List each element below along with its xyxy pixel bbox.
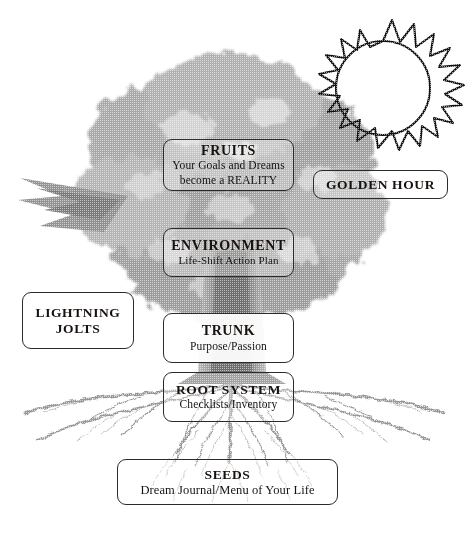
trunk-subtitle: Purpose/Passion <box>190 340 267 354</box>
environment-title: ENVIRONMENT <box>171 238 286 254</box>
label-box-golden-hour[interactable]: GOLDEN HOUR <box>313 170 448 199</box>
fruits-subtitle-line2: become a REALITY <box>180 174 277 188</box>
left-branch-illustration <box>18 178 128 244</box>
label-box-lightning-jolts[interactable]: LIGHTNING JOLTS <box>22 292 134 349</box>
label-box-fruits[interactable]: FRUITS Your Goals and Dreams become a RE… <box>163 139 294 191</box>
fruits-title: FRUITS <box>201 143 256 159</box>
label-box-environment[interactable]: ENVIRONMENT Life-Shift Action Plan <box>163 228 294 277</box>
diagram-canvas: FRUITS Your Goals and Dreams become a RE… <box>0 0 466 540</box>
seeds-title: SEEDS <box>205 467 251 482</box>
label-box-trunk[interactable]: TRUNK Purpose/Passion <box>163 313 294 363</box>
root-system-subtitle: Checklists/Inventory <box>180 398 278 412</box>
seeds-subtitle: Dream Journal/Menu of Your Life <box>140 483 314 498</box>
environment-subtitle: Life-Shift Action Plan <box>179 254 279 267</box>
fruits-subtitle-line1: Your Goals and Dreams <box>172 159 284 173</box>
lightning-jolts-title-line1: LIGHTNING <box>36 305 121 320</box>
golden-hour-title: GOLDEN HOUR <box>326 177 435 192</box>
lightning-jolts-title-line2: JOLTS <box>56 321 101 336</box>
label-box-root-system[interactable]: ROOT SYSTEM Checklists/Inventory <box>163 372 294 422</box>
label-box-seeds[interactable]: SEEDS Dream Journal/Menu of Your Life <box>117 459 338 505</box>
sun-icon <box>319 20 464 150</box>
root-system-title: ROOT SYSTEM <box>176 382 281 397</box>
trunk-title: TRUNK <box>202 323 256 339</box>
